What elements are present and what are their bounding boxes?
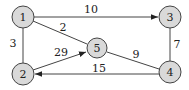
edge-label-4-2: 15	[92, 62, 106, 75]
edge-label-1-5: 2	[60, 21, 67, 34]
svg-text:5: 5	[94, 42, 101, 55]
node-4: 4	[159, 61, 181, 83]
edge-label-1-3: 10	[84, 3, 98, 16]
edge-label-5-4: 9	[133, 48, 140, 61]
node-1: 1	[12, 6, 34, 28]
svg-text:1: 1	[20, 11, 27, 24]
graph-diagram: 10 2 3 29 9 15 7 1 2 3 4 5	[0, 0, 189, 90]
node-5: 5	[87, 38, 107, 58]
svg-text:4: 4	[167, 66, 174, 79]
node-2: 2	[12, 63, 34, 85]
svg-text:3: 3	[167, 11, 174, 24]
edge-label-1-2: 3	[10, 37, 17, 50]
edge-label-3-4: 7	[174, 38, 181, 51]
node-3: 3	[159, 6, 181, 28]
edge-label-2-5: 29	[54, 46, 68, 59]
svg-text:2: 2	[20, 68, 27, 81]
